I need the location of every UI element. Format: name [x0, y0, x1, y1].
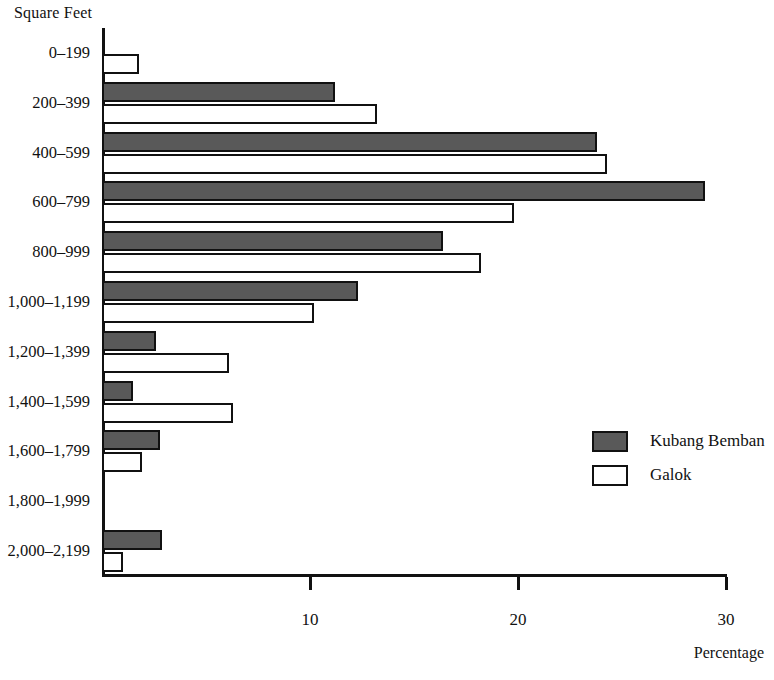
bar-galok-4 [102, 253, 481, 273]
plot-area [102, 28, 726, 576]
bar-galok-5 [102, 303, 314, 323]
bar-kubang-bemban-4 [102, 231, 443, 251]
bar-galok-0 [102, 54, 139, 74]
category-label-10: 2,000–2,199 [8, 541, 91, 561]
x-tick-label-30: 30 [718, 610, 735, 630]
bar-galok-8 [102, 452, 142, 472]
bar-chart: Square Feet 0–199200–399400–599600–79980… [0, 0, 774, 680]
x-axis-title: Percentage [694, 644, 764, 662]
category-label-5: 1,000–1,199 [8, 292, 91, 312]
x-tick-label-20: 20 [510, 610, 527, 630]
legend-swatch-kubang-bemban [592, 431, 628, 452]
category-label-2: 400–599 [32, 143, 90, 163]
bar-galok-1 [102, 104, 377, 124]
bar-galok-2 [102, 154, 607, 174]
x-tick-20 [517, 577, 520, 590]
bar-kubang-bemban-2 [102, 132, 597, 152]
bar-kubang-bemban-7 [102, 381, 133, 401]
category-label-0: 0–199 [49, 43, 90, 63]
bar-galok-3 [102, 203, 514, 223]
bar-galok-7 [102, 403, 233, 423]
category-label-8: 1,600–1,799 [8, 441, 91, 461]
bar-kubang-bemban-8 [102, 430, 160, 450]
x-tick-30 [725, 577, 728, 590]
x-tick-label-10: 10 [302, 610, 319, 630]
bar-kubang-bemban-5 [102, 281, 358, 301]
legend-entry-kubang-bemban: Kubang Bemban [592, 424, 765, 458]
bar-galok-10 [102, 552, 123, 572]
category-label-3: 600–799 [32, 192, 90, 212]
category-label-6: 1,200–1,399 [8, 342, 91, 362]
category-label-column: 0–199200–399400–599600–799800–9991,000–1… [0, 0, 102, 680]
bar-kubang-bemban-10 [102, 530, 162, 550]
category-label-9: 1,800–1,999 [8, 491, 91, 511]
x-tick-10 [309, 577, 312, 590]
category-label-1: 200–399 [32, 93, 90, 113]
bar-galok-6 [102, 353, 229, 373]
bar-kubang-bemban-3 [102, 181, 705, 201]
bar-kubang-bemban-1 [102, 82, 335, 102]
bar-kubang-bemban-6 [102, 331, 156, 351]
category-label-4: 800–999 [32, 242, 90, 262]
legend-entry-galok: Galok [592, 458, 765, 492]
legend-label-galok: Galok [650, 465, 692, 485]
legend-swatch-galok [592, 465, 628, 486]
legend-label-kubang-bemban: Kubang Bemban [650, 431, 765, 451]
legend: Kubang Bemban Galok [592, 424, 765, 492]
category-label-7: 1,400–1,599 [8, 392, 91, 412]
